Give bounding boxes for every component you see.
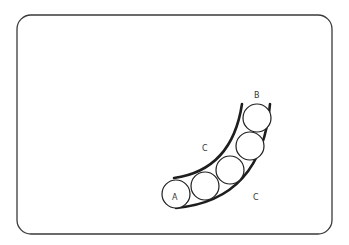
circle-2 [191,172,219,200]
circle-b [243,104,271,132]
label-a: A [172,193,178,202]
label-b: B [254,91,260,100]
circle-3 [216,156,244,184]
label-c-lower: C [253,193,259,202]
label-c-upper: C [202,144,208,153]
diagram-canvas: A B C C [0,0,349,245]
circle-4 [236,132,264,160]
